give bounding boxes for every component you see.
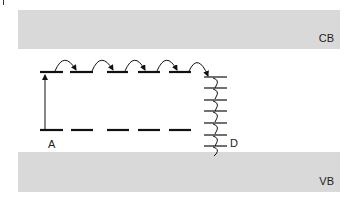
- energy-level-diagram: [0, 0, 356, 197]
- acceptor-label: A: [48, 138, 55, 150]
- relaxation-arrows: [213, 78, 217, 156]
- defect-label: D: [230, 137, 238, 149]
- hopping-arrows: [55, 60, 208, 76]
